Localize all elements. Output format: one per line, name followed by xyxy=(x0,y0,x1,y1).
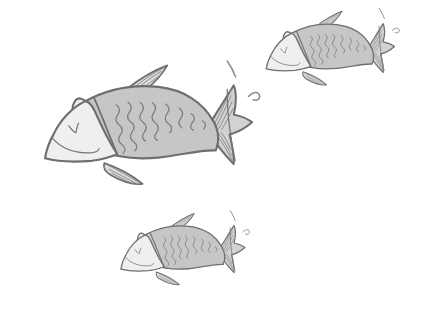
illustration-canvas xyxy=(0,0,429,318)
fish-scene-svg xyxy=(0,0,429,318)
